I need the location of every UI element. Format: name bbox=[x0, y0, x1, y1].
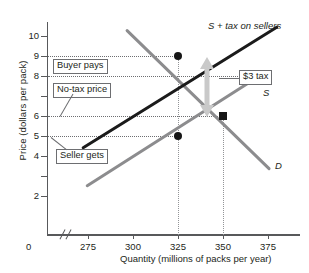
x-axis-title: Quantity (millions of packs per year) bbox=[120, 253, 272, 264]
y-axis-line bbox=[47, 22, 48, 235]
x-tick-375 bbox=[268, 234, 269, 239]
x-tick-label-350: 350 bbox=[208, 241, 238, 252]
x-tick-label-300: 300 bbox=[118, 241, 148, 252]
x-tick-300 bbox=[133, 234, 134, 239]
buyer-pays-point bbox=[174, 52, 182, 60]
tax-arrow-icon bbox=[198, 56, 216, 118]
buyer-pays-callout: Buyer pays bbox=[53, 59, 108, 74]
y-tick-4 bbox=[41, 156, 47, 157]
seller-gets-callout: Seller gets bbox=[56, 149, 108, 164]
y-tick-label-10: 10 bbox=[17, 30, 39, 41]
seller-gets-point bbox=[174, 132, 182, 140]
supply-plus-tax-label: S + tax on sellers bbox=[208, 20, 281, 31]
demand-label: D bbox=[275, 160, 282, 171]
gridline-price-8 bbox=[48, 76, 248, 77]
x-tick-label-375: 375 bbox=[253, 241, 283, 252]
supply-label: S bbox=[263, 87, 269, 98]
y-tick-label-8: 8 bbox=[17, 70, 39, 81]
x-tick-label-325: 325 bbox=[163, 241, 193, 252]
y-tick-5 bbox=[41, 136, 47, 137]
y-tick-2 bbox=[41, 196, 47, 197]
supply-demand-tax-chart: Price (dollars per pack) Quantity (milli… bbox=[0, 0, 309, 273]
y-tick-7 bbox=[41, 96, 47, 97]
y-tick-label-5: 5 bbox=[17, 130, 39, 141]
vgridline-quantity-350 bbox=[223, 117, 224, 235]
tax-leader bbox=[219, 78, 239, 79]
y-tick-10 bbox=[41, 36, 47, 37]
x-axis-line bbox=[47, 234, 300, 235]
y-tick-label-9: 9 bbox=[17, 50, 39, 61]
y-tick-3 bbox=[41, 176, 47, 177]
x-tick-label-275: 275 bbox=[73, 241, 103, 252]
no-tax-equilibrium-point bbox=[219, 112, 227, 120]
tax-arrow bbox=[198, 56, 216, 118]
y-tick-8 bbox=[41, 76, 47, 77]
x-tick-275 bbox=[88, 234, 89, 239]
gridline-price-9 bbox=[48, 56, 179, 57]
y-tick-6 bbox=[41, 116, 47, 117]
origin-label: 0 bbox=[26, 241, 31, 252]
y-tick-label-6: 6 bbox=[17, 110, 39, 121]
no-tax-price-callout: No-tax price bbox=[53, 83, 111, 98]
y-tick-label-2: 2 bbox=[17, 190, 39, 201]
y-tick-label-4: 4 bbox=[17, 150, 39, 161]
tax-callout: $3 tax bbox=[239, 70, 272, 85]
y-tick-9 bbox=[41, 56, 47, 57]
